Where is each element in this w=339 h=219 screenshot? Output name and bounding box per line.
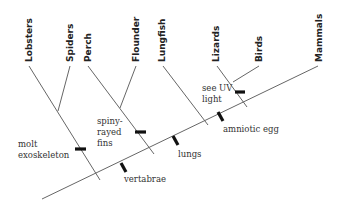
trait-label: vertabrae: [123, 174, 166, 184]
trait-label: fins: [97, 138, 113, 148]
marker-vertabrae: [121, 163, 126, 172]
marker-lungs: [173, 136, 178, 145]
trait-label: light: [202, 94, 222, 104]
taxon-label: Flounder: [131, 16, 141, 62]
taxon-label: Spiders: [65, 24, 75, 62]
taxon-label: Lizards: [211, 26, 221, 62]
branch-lobsters: [29, 66, 100, 180]
trait-label: molt: [18, 139, 38, 149]
taxon-label: Mammals: [314, 14, 324, 62]
branch-flounder: [120, 66, 136, 108]
taxon-label: Perch: [83, 33, 93, 62]
marker-amniotic-egg: [218, 112, 223, 121]
trait-label: spiny-: [97, 116, 123, 126]
trait-label: amniotic egg: [223, 124, 280, 134]
trait-label: rayed: [97, 127, 122, 137]
trait-label: see UV: [202, 83, 233, 93]
branch-spiders: [58, 66, 70, 111]
taxon-label: Lobsters: [24, 18, 34, 62]
branch-birds: [233, 66, 259, 82]
taxon-label: Birds: [254, 36, 264, 62]
cladogram: Lobsters Spiders Perch Flounder Lungfish…: [0, 0, 339, 219]
trait-label: lungs: [178, 149, 201, 159]
trait-label: exoskeleton: [18, 150, 70, 160]
taxon-label: Lungfish: [157, 19, 167, 62]
